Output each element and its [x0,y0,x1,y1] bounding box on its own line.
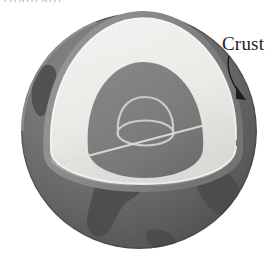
continent-fragment-east [240,55,256,73]
crust-label: Crust [222,33,264,55]
earth-cutaway-figure: diagram [0,0,279,257]
